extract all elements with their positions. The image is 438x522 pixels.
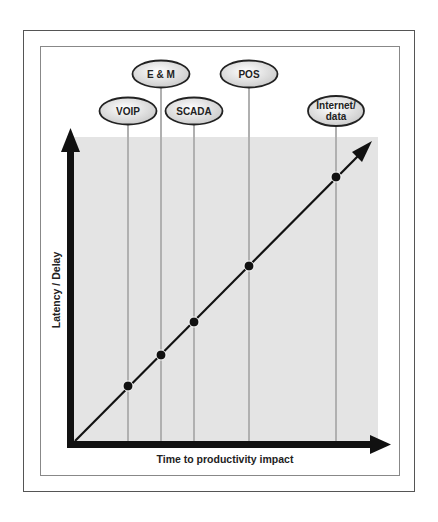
data-point-pos (244, 261, 254, 271)
x-axis-label: Time to productivity impact (157, 453, 294, 465)
data-point-voip (123, 381, 133, 391)
data-point-scada (189, 317, 199, 327)
category-label-scada: SCADA (176, 106, 212, 117)
category-label-em: E & M (147, 69, 175, 80)
x-axis-arrow (370, 435, 391, 454)
y-axis (67, 148, 74, 448)
category-label-voip: VOIP (116, 106, 140, 117)
data-point-internet (331, 172, 341, 182)
data-point-em (156, 350, 166, 360)
latency-diagram (0, 0, 438, 522)
x-axis (67, 441, 377, 448)
y-axis-label: Latency / Delay (50, 252, 62, 328)
category-label-pos: POS (238, 69, 259, 80)
category-label-internet: Internet/ data (316, 100, 355, 122)
